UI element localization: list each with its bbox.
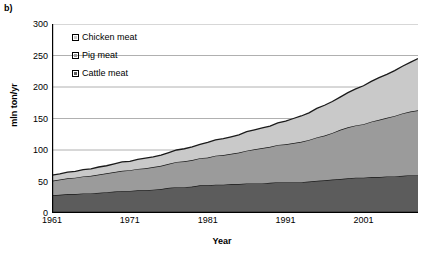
x-tick-label-1961: 1961 [32, 216, 72, 225]
x-tick-label-2001: 2001 [343, 216, 383, 225]
chart-legend: Chicken meatPig meatCattle meat [72, 30, 137, 84]
legend-swatch-chicken-icon [72, 34, 79, 41]
y-tick-label-300: 300 [14, 20, 48, 29]
legend-label: Cattle meat [82, 69, 128, 78]
legend-item-pig: Pig meat [72, 48, 137, 62]
legend-item-chicken: Chicken meat [72, 30, 137, 44]
x-axis-title: Year [0, 236, 426, 246]
figure-panel-b: b) mln ton/yr 050100150200250300 1961197… [0, 0, 426, 257]
legend-label: Pig meat [82, 51, 118, 60]
legend-label: Chicken meat [82, 33, 137, 42]
y-tick-label-250: 250 [14, 52, 48, 61]
y-tick-label-150: 150 [14, 115, 48, 124]
y-tick-label-100: 100 [14, 146, 48, 155]
x-tick-label-1991: 1991 [266, 216, 306, 225]
x-axis-title-text: Year [212, 236, 231, 246]
x-tick-label-1971: 1971 [110, 216, 150, 225]
x-tick-label-1981: 1981 [188, 216, 228, 225]
legend-swatch-pig-icon [72, 52, 79, 59]
y-tick-label-200: 200 [14, 83, 48, 92]
legend-swatch-cattle-icon [72, 70, 79, 77]
x-axis-tick-labels: 19611971198119912001 [0, 216, 426, 232]
y-tick-label-50: 50 [14, 178, 48, 187]
legend-item-cattle: Cattle meat [72, 66, 137, 80]
